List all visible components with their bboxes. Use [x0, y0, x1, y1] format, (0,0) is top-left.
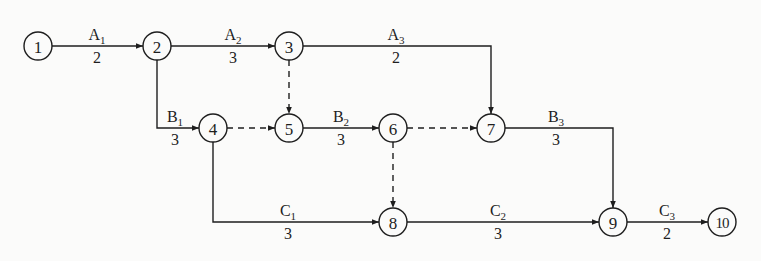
activity-name-label: C1 — [280, 202, 296, 222]
node-number: 2 — [153, 38, 162, 57]
node-4: 4 — [199, 114, 227, 142]
activity-name-label: A2 — [224, 26, 241, 46]
node-number: 8 — [389, 214, 398, 233]
activity-name-label: A1 — [88, 26, 105, 46]
activity-duration-label: 3 — [552, 131, 560, 148]
activity-duration-label: 3 — [337, 131, 345, 148]
node-number: 6 — [389, 120, 398, 139]
nodes-layer: 12345678910 — [24, 32, 736, 236]
activity-name-label: B3 — [548, 108, 565, 128]
activity-duration-label: 3 — [229, 49, 237, 66]
node-9: 9 — [599, 208, 627, 236]
node-number: 9 — [609, 214, 618, 233]
node-number: 5 — [285, 120, 294, 139]
activity-name-label: B1 — [167, 108, 183, 128]
node-10: 10 — [708, 208, 736, 236]
activity-duration-label: 2 — [392, 49, 400, 66]
node-1: 1 — [24, 32, 52, 60]
node-number: 7 — [487, 120, 496, 139]
node-2: 2 — [143, 32, 171, 60]
network-diagram: A12A23A32B13B23B33C13C23C32 12345678910 — [0, 0, 761, 261]
node-8: 8 — [379, 208, 407, 236]
node-number: 10 — [716, 215, 730, 231]
activity-name-label: B2 — [333, 108, 349, 128]
activity-duration-label: 2 — [663, 225, 671, 242]
node-7: 7 — [477, 114, 505, 142]
node-number: 1 — [34, 38, 43, 57]
node-5: 5 — [275, 114, 303, 142]
activity-name-label: C3 — [659, 202, 676, 222]
activity-duration-label: 2 — [93, 49, 101, 66]
activity-duration-label: 3 — [494, 225, 502, 242]
node-number: 4 — [209, 120, 218, 139]
diagram-svg: A12A23A32B13B23B33C13C23C32 12345678910 — [0, 0, 761, 261]
node-number: 3 — [285, 38, 294, 57]
activity-duration-label: 3 — [171, 131, 179, 148]
node-6: 6 — [379, 114, 407, 142]
activity-name-label: A3 — [387, 26, 405, 46]
activity-duration-label: 3 — [284, 225, 292, 242]
activity-name-label: C2 — [490, 202, 506, 222]
node-3: 3 — [275, 32, 303, 60]
